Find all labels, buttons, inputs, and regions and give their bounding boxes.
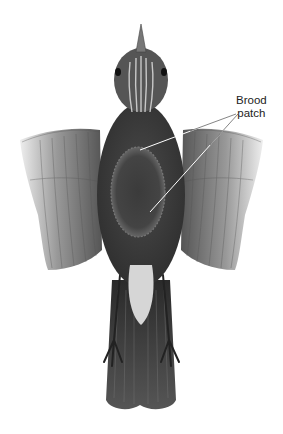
label-line-2: patch bbox=[236, 107, 267, 120]
bird-illustration bbox=[0, 0, 283, 434]
left-wing bbox=[20, 129, 102, 270]
bird-head bbox=[114, 24, 168, 112]
left-eye bbox=[115, 68, 121, 76]
beak bbox=[136, 24, 146, 52]
right-wing bbox=[181, 129, 263, 270]
right-eye bbox=[161, 68, 167, 76]
brood-patch bbox=[111, 147, 165, 237]
label-line-1: Brood bbox=[236, 94, 267, 107]
brood-patch-label: Brood patch bbox=[236, 94, 267, 120]
